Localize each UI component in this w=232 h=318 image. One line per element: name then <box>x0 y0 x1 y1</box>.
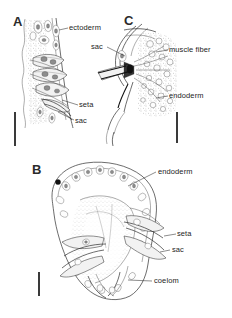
label-a-ectoderm: ectoderm <box>69 24 101 32</box>
panel-a-leaders <box>58 28 78 120</box>
figure-plate: A B C ectoderm seta sac sac muscle fiber… <box>0 0 232 318</box>
panel-letter-a: A <box>13 15 23 28</box>
panel-b-drawing <box>52 162 166 299</box>
panel-c-drawing <box>98 24 177 146</box>
scale-bar-panel-b <box>38 272 40 296</box>
scale-bar-panel-c <box>176 112 178 143</box>
label-b-sac: sac <box>172 246 184 254</box>
panel-letter-c: C <box>124 14 134 27</box>
label-a-sac: sac <box>75 117 87 125</box>
label-b-endoderm: endoderm <box>158 168 193 176</box>
label-b-coelom: coelom <box>154 277 179 285</box>
panel-b-leaders <box>128 172 176 281</box>
label-c-sac: sac <box>91 43 103 51</box>
panel-a-drawing <box>22 18 73 128</box>
label-c-muscle-fiber: muscle fiber <box>169 46 211 54</box>
label-b-seta: seta <box>177 230 192 238</box>
label-a-seta: seta <box>79 101 94 109</box>
panel-letter-b: B <box>32 163 42 176</box>
panel-c-leaders <box>107 47 168 98</box>
label-c-endoderm: endoderm <box>169 92 204 100</box>
scale-bar-panel-a <box>14 112 16 146</box>
